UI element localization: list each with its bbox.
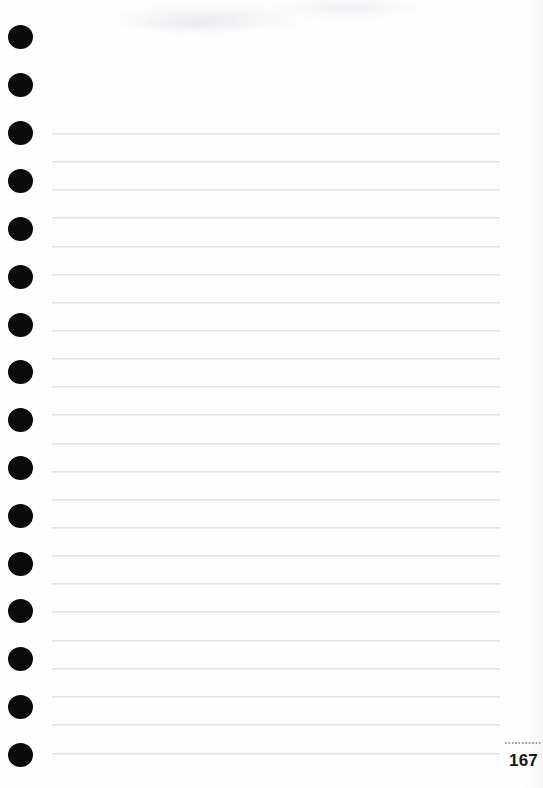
binding-hole: [8, 360, 33, 384]
binding-hole: [8, 504, 33, 528]
ruled-line: [52, 555, 500, 556]
binding-hole: [8, 408, 33, 432]
ruled-line: [52, 499, 500, 500]
ruled-line: [52, 753, 500, 754]
ruled-line: [52, 414, 500, 415]
ruled-line: [52, 161, 500, 162]
binding-hole: [8, 695, 33, 719]
binding-hole: [8, 217, 33, 241]
binding-hole: [8, 169, 33, 193]
paper-smudge-secondary-icon: [108, 10, 318, 40]
binding-hole: [8, 743, 33, 767]
ruled-line: [52, 358, 500, 359]
ruled-line: [52, 189, 500, 190]
ruled-line: [52, 330, 500, 331]
ruled-line: [52, 527, 500, 528]
binding-hole: [8, 456, 33, 480]
ruled-line: [52, 133, 500, 134]
ruled-line: [52, 696, 500, 697]
ruled-line: [52, 471, 500, 472]
ruled-line: [52, 724, 500, 725]
binding-hole: [8, 552, 33, 576]
notebook-page: 167: [0, 0, 543, 788]
ruled-line: [52, 640, 500, 641]
paper-smudge-icon: [110, 0, 440, 40]
page-number-dotted-rule: [505, 742, 542, 744]
ruled-line: [52, 583, 500, 584]
page-number: 167: [504, 751, 543, 770]
page-number-block: 167: [504, 742, 543, 770]
ruled-line: [52, 302, 500, 303]
binding-hole: [8, 599, 33, 623]
ruled-line: [52, 274, 500, 275]
binding-hole: [8, 25, 33, 49]
binding-hole: [8, 73, 33, 97]
ruled-line: [52, 386, 500, 387]
binding-hole: [8, 647, 33, 671]
page-edge-shading: [523, 0, 543, 788]
ruled-line: [52, 217, 500, 218]
ruled-line: [52, 611, 500, 612]
binding-hole: [8, 121, 33, 145]
ruled-line: [52, 443, 500, 444]
binding-hole: [8, 313, 33, 337]
ruled-line: [52, 246, 500, 247]
binding-hole: [8, 265, 33, 289]
ruled-line: [52, 668, 500, 669]
